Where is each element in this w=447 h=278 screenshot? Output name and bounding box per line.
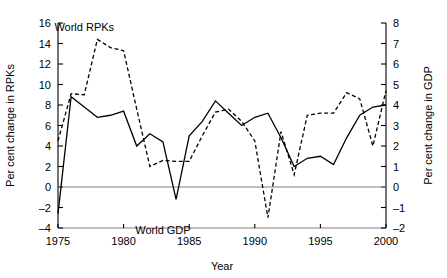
x-tick-label: 1975 — [46, 235, 70, 247]
y2-tick-label: 8 — [393, 17, 399, 29]
chart-plot-area: 197519801985199019952000 –4–202468101214… — [0, 0, 447, 278]
y2-tick-label: –1 — [393, 202, 405, 214]
x-tick-label: 1995 — [308, 235, 332, 247]
series-label-world-gdp: World GDP — [135, 224, 190, 236]
y2-tick-label: 3 — [393, 120, 399, 132]
y2-tick-label: 2 — [393, 140, 399, 152]
y2-tick-label: 0 — [393, 181, 399, 193]
y-tick-label: 8 — [45, 99, 51, 111]
x-tick-label: 2000 — [374, 235, 398, 247]
y2-tick-label: 7 — [393, 38, 399, 50]
y-tick-label: 10 — [39, 79, 51, 91]
x-tick-label: 1980 — [111, 235, 135, 247]
y2-tick-label: 6 — [393, 58, 399, 70]
y-tick-label: 4 — [45, 140, 51, 152]
x-tick-label: 1985 — [177, 235, 201, 247]
y-tick-label: 2 — [45, 161, 51, 173]
y-tick-label: –4 — [39, 222, 51, 234]
y-tick-label: 14 — [39, 38, 51, 50]
chart-figure: 197519801985199019952000 –4–202468101214… — [0, 0, 447, 278]
y2-tick-label: –2 — [393, 222, 405, 234]
y2-tick-label: 4 — [393, 99, 399, 111]
y-axis-left-title: Per cent change in RPKs — [4, 64, 16, 187]
y-tick-label: –2 — [39, 202, 51, 214]
x-axis-title: Year — [211, 260, 234, 272]
y-tick-label: 12 — [39, 58, 51, 70]
y2-tick-label: 5 — [393, 79, 399, 91]
y-tick-label: 0 — [45, 181, 51, 193]
y-tick-label: 6 — [45, 120, 51, 132]
y2-tick-label: 1 — [393, 161, 399, 173]
y-axis-right-title: Per cent change in GDP — [422, 66, 434, 185]
x-tick-label: 1990 — [243, 235, 267, 247]
series-label-world-rpks: World RPKs — [54, 21, 114, 33]
y-tick-label: 16 — [39, 17, 51, 29]
